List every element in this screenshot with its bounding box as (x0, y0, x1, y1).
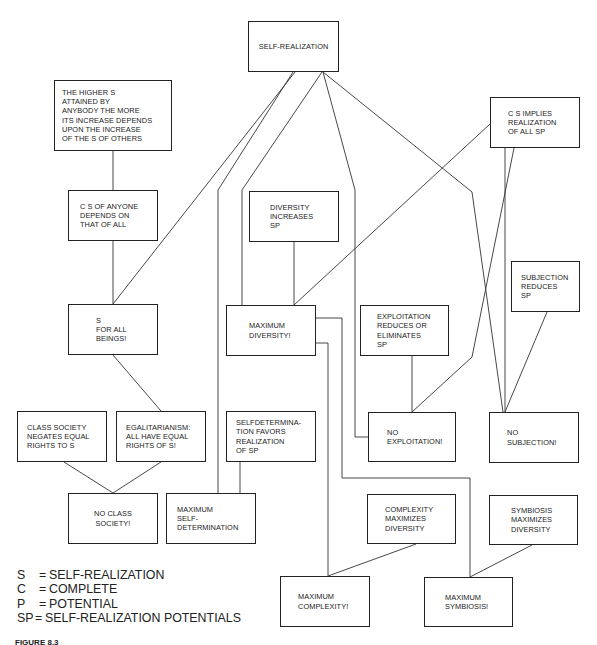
legend-key: P (17, 597, 39, 611)
box-subjection-reduces: SUBJECTION REDUCES SP (511, 261, 580, 312)
box-label: COMPLEXITY MAXIMIZES DIVERSITY (385, 505, 433, 533)
legend-equals: = (39, 597, 49, 611)
legend-key: SP (17, 611, 35, 625)
box-no-subjection: NO SUBJECTION! (489, 412, 579, 463)
box-label: EXPLOITATION REDUCES OR ELIMINATES SP (377, 312, 430, 349)
box-label: C S IMPLIES REALIZATION OF ALL SP (508, 109, 556, 137)
connector (323, 72, 368, 437)
box-exploitation-reduces: EXPLOITATION REDUCES OR ELIMINATES SP (360, 305, 449, 356)
box-label: NO SUBJECTION! (507, 428, 556, 446)
connector (113, 355, 161, 411)
legend-row-s: S = SELF-REALIZATION (17, 568, 241, 582)
connector (412, 148, 514, 412)
box-label: MAXIMUM DIVERSITY! (249, 321, 291, 339)
legend-row-sp: SP = SELF-REALIZATION POTENTIALS (17, 611, 241, 625)
legend-key: S (17, 568, 39, 582)
legend-equals: = (39, 582, 49, 596)
box-cs-implies: C S IMPLIES REALIZATION OF ALL SP (490, 97, 580, 148)
box-label: MAXIMUM SELF- DETERMINATION (177, 505, 238, 533)
connector (242, 72, 322, 305)
legend: S = SELF-REALIZATION C = COMPLETE P = PO… (17, 568, 241, 626)
box-label: C S OF ANYONE DEPENDS ON THAT OF ALL (80, 202, 138, 230)
legend-value: SELF-REALIZATION POTENTIALS (45, 611, 241, 625)
connector (505, 312, 547, 412)
legend-row-c: C = COMPLETE (17, 582, 241, 596)
box-label: CLASS SOCIETY NEGATES EQUAL RIGHTS TO S (27, 423, 90, 451)
legend-equals: = (35, 611, 45, 625)
box-label: SELF-REALIZATION (259, 42, 329, 51)
box-label: NO EXPLOITATION! (387, 428, 442, 446)
connector (316, 343, 328, 576)
legend-equals: = (39, 568, 49, 582)
box-self-realization: SELF-REALIZATION (248, 21, 339, 72)
legend-key: C (17, 582, 39, 596)
box-maximum-complexity: MAXIMUM COMPLEXITY! (280, 576, 370, 627)
box-label: EGALITARIANISM: ALL HAVE EQUAL RIGHTS OF… (126, 423, 190, 451)
box-label: MAXIMUM COMPLEXITY! (298, 592, 348, 610)
box-label: MAXIMUM SYMBIOSIS! (445, 593, 488, 611)
box-egalitarianism: EGALITARIANISM: ALL HAVE EQUAL RIGHTS OF… (116, 411, 206, 462)
legend-value: COMPLETE (49, 582, 117, 596)
box-selfdetermination-favors: SELFDETERMINA- TION FAVORS REALIZATION O… (226, 411, 316, 462)
box-maximum-diversity: MAXIMUM DIVERSITY! (226, 305, 316, 356)
box-label: SUBJECTION REDUCES SP (521, 273, 568, 301)
connector (323, 72, 503, 412)
connector (470, 545, 532, 577)
connector (64, 462, 113, 493)
legend-value: SELF-REALIZATION (49, 568, 164, 582)
box-cs-of-anyone: C S OF ANYONE DEPENDS ON THAT OF ALL (68, 190, 158, 241)
box-symbiosis-maximizes: SYMBIOSIS MAXIMIZES DIVERSITY (489, 495, 578, 545)
box-no-exploitation: NO EXPLOITATION! (368, 412, 456, 462)
box-label: DIVERSITY INCREASES SP (270, 203, 313, 231)
legend-value: POTENTIAL (49, 597, 118, 611)
box-label: NO CLASS SOCIETY! (94, 509, 132, 527)
figure-caption: FIGURE 8.3 (15, 638, 59, 645)
legend-row-p: P = POTENTIAL (17, 597, 241, 611)
box-label: SYMBIOSIS MAXIMIZES DIVERSITY (511, 506, 552, 534)
box-class-society: CLASS SOCIETY NEGATES EQUAL RIGHTS TO S (17, 411, 107, 462)
box-s-for-all-beings: S FOR ALL BEINGS! (68, 304, 158, 355)
box-no-class-society: NO CLASS SOCIETY! (68, 493, 158, 544)
box-label: S FOR ALL BEINGS! (96, 316, 127, 344)
box-complexity-maximizes: COMPLEXITY MAXIMIZES DIVERSITY (367, 494, 456, 544)
box-maximum-symbiosis: MAXIMUM SYMBIOSIS! (424, 577, 513, 627)
connector (328, 544, 416, 576)
box-label: SELFDETERMINA- TION FAVORS REALIZATION O… (236, 418, 301, 455)
box-maximum-self-determination: MAXIMUM SELF- DETERMINATION (166, 493, 256, 544)
connector (113, 462, 161, 493)
box-higher-s: THE HIGHER S ATTAINED BY ANYBODY THE MOR… (54, 80, 172, 151)
box-diversity-increases: DIVERSITY INCREASES SP (249, 191, 339, 242)
box-label: THE HIGHER S ATTAINED BY ANYBODY THE MOR… (62, 88, 152, 143)
